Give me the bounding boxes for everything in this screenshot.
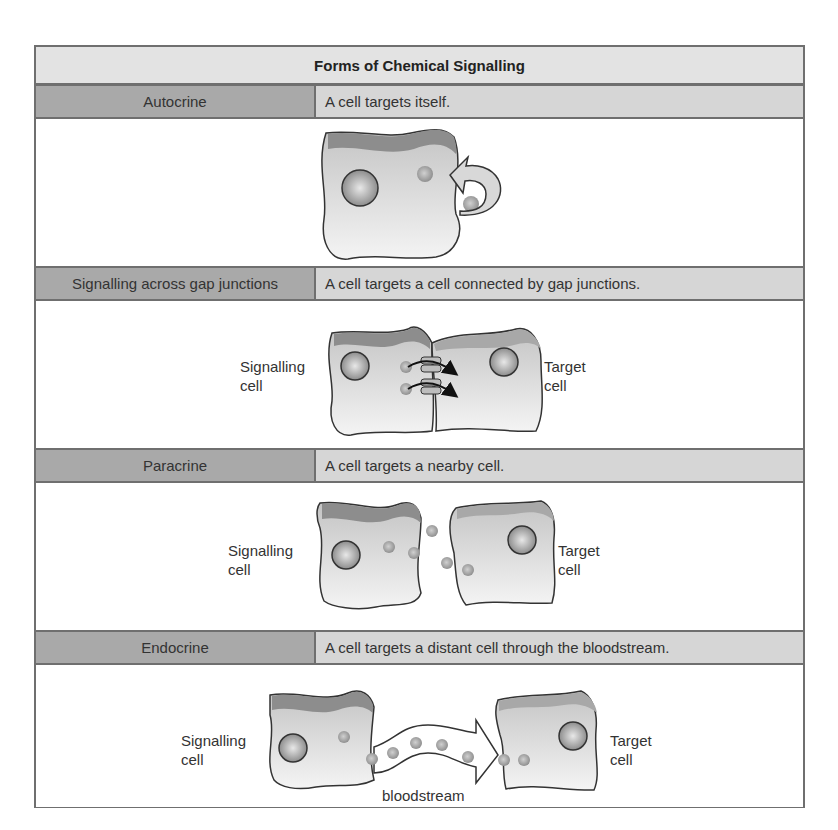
table-title: Forms of Chemical Signalling <box>36 47 803 85</box>
target-cell-label: Target cell <box>558 541 600 579</box>
signalling-cell-label: Signalling cell <box>181 731 246 769</box>
chemical-signalling-table: Forms of Chemical Signalling Autocrine A… <box>34 45 805 808</box>
row-header-autocrine: Autocrine A cell targets itself. <box>36 84 803 119</box>
autocrine-diagram <box>36 119 807 266</box>
label-line: cell <box>240 376 305 395</box>
row-header-gap-junctions: Signalling across gap junctions A cell t… <box>36 266 803 301</box>
label-line: Target <box>558 541 600 560</box>
label-line: Signalling <box>240 357 305 376</box>
row-header-paracrine: Paracrine A cell targets a nearby cell. <box>36 448 803 483</box>
signalling-cell-label: Signalling cell <box>228 541 293 579</box>
signalling-cell-label: Signalling cell <box>240 357 305 395</box>
target-cell-label: Target cell <box>610 731 652 769</box>
label-line: cell <box>558 560 600 579</box>
bloodstream-label: bloodstream <box>382 786 465 805</box>
label-line: cell <box>181 750 246 769</box>
label-line: cell <box>610 750 652 769</box>
paracrine-illustration: Signalling cell Target cell <box>36 483 803 630</box>
paracrine-diagram <box>36 483 807 630</box>
gap-junction-diagram <box>36 301 807 448</box>
label-line: Signalling <box>228 541 293 560</box>
label-line: cell <box>228 560 293 579</box>
gap-junction-illustration: Signalling cell Target cell <box>36 301 803 448</box>
endocrine-illustration: Signalling cell Target cell bloodstream <box>36 665 803 807</box>
row-description: A cell targets a cell connected by gap j… <box>316 268 803 299</box>
row-description: A cell targets a nearby cell. <box>316 450 803 481</box>
row-name: Autocrine <box>36 86 316 117</box>
label-line: Signalling <box>181 731 246 750</box>
autocrine-illustration <box>36 119 803 266</box>
label-line: Target <box>544 357 586 376</box>
row-name: Endocrine <box>36 632 316 663</box>
label-line: Target <box>610 731 652 750</box>
label-line: cell <box>544 376 586 395</box>
target-cell-label: Target cell <box>544 357 586 395</box>
row-name: Paracrine <box>36 450 316 481</box>
row-description: A cell targets a distant cell through th… <box>316 632 803 663</box>
row-name: Signalling across gap junctions <box>36 268 316 299</box>
row-header-endocrine: Endocrine A cell targets a distant cell … <box>36 630 803 665</box>
row-description: A cell targets itself. <box>316 86 803 117</box>
